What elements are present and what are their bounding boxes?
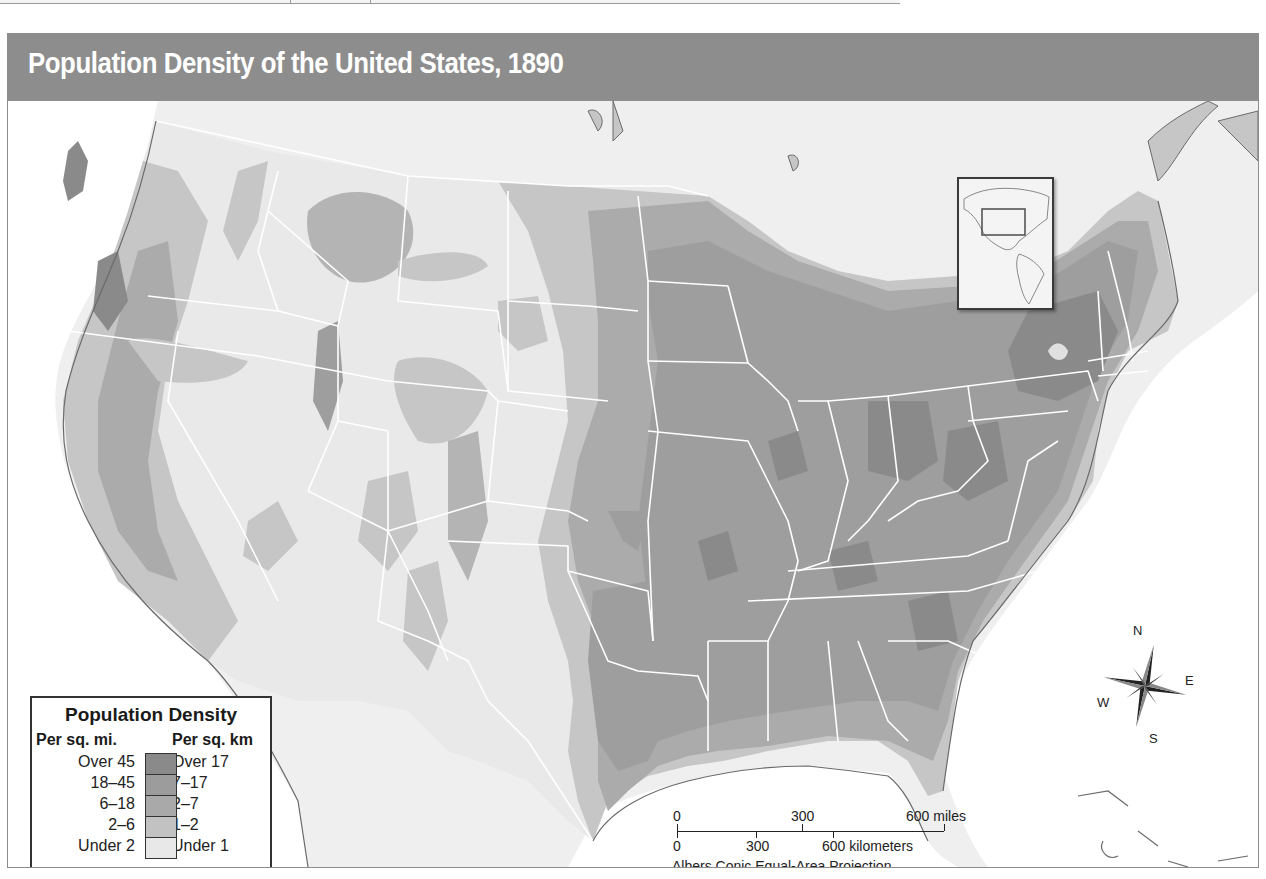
legend-mi-value: 2–6 (108, 816, 135, 834)
legend-swatch-6-18 (145, 795, 177, 817)
map-figure: Population Density of the United States,… (7, 33, 1259, 868)
locator-inset-map (957, 177, 1054, 310)
legend-swatch-under-2 (145, 837, 177, 859)
scale-km-600: 600 kilometers (822, 838, 913, 854)
legend-km-value: Under 1 (172, 837, 229, 855)
compass-north-label: N (1133, 623, 1142, 638)
scale-km-300: 300 (746, 838, 769, 854)
legend-mi-value: 6–18 (99, 795, 135, 813)
legend-mi-value: Over 45 (78, 753, 135, 771)
scale-miles-0: 0 (673, 808, 681, 824)
scale-line (677, 831, 944, 832)
legend-swatch-over-45 (145, 753, 177, 775)
rule-tick (290, 0, 291, 4)
title-bar: Population Density of the United States,… (8, 34, 1258, 101)
scale-tick (756, 831, 757, 838)
legend-mi-value: Under 2 (78, 837, 135, 855)
scale-tick (833, 831, 834, 838)
compass-east-label: E (1185, 673, 1194, 688)
density-legend: Population Density Per sq. mi. Per sq. k… (30, 696, 272, 868)
compass-rose: N S E W (1093, 631, 1193, 741)
legend-col-mi: Per sq. mi. (36, 731, 117, 749)
scale-tick (677, 824, 678, 838)
map-canvas: Population Density Per sq. mi. Per sq. k… (8, 101, 1258, 867)
scale-km-0: 0 (673, 838, 681, 854)
rule-tick (370, 0, 371, 4)
compass-rose-icon (1093, 631, 1193, 741)
scale-tick (944, 824, 945, 831)
legend-swatch-18-45 (145, 774, 177, 796)
scale-miles-300: 300 (791, 808, 814, 824)
compass-south-label: S (1149, 731, 1158, 746)
scale-bar: 0 300 600 miles 0 300 600 kilometers Alb… (670, 806, 990, 868)
map-title: Population Density of the United States,… (28, 46, 563, 80)
legend-km-value: Over 17 (172, 753, 229, 771)
us-highlight-box (982, 209, 1025, 235)
legend-title: Population Density (32, 704, 270, 726)
legend-swatch-2-6 (145, 816, 177, 838)
scale-tick (802, 824, 803, 831)
legend-col-km: Per sq. km (172, 731, 253, 749)
legend-mi-value: 18–45 (91, 774, 136, 792)
compass-west-label: W (1097, 695, 1109, 710)
scale-miles-600: 600 miles (906, 808, 966, 824)
projection-label: Albers Conic Equal-Area Projection (672, 858, 891, 868)
americas-locator-icon (959, 179, 1052, 308)
table-bottom-rule (0, 0, 900, 4)
legend-km-value: 7–17 (172, 774, 208, 792)
